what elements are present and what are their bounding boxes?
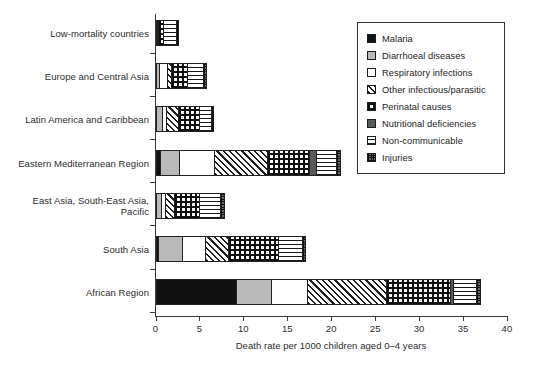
bar-segment-perinatal[interactable] (178, 106, 198, 132)
bar-segment-malaria[interactable] (156, 279, 237, 305)
bar-segment-other-infectious[interactable] (166, 106, 178, 132)
chart-legend: MalariaDiarrhoeal diseasesRespiratory in… (357, 22, 505, 174)
category-label-6: African Region (86, 287, 149, 298)
bar-segment-perinatal[interactable] (267, 150, 309, 176)
bar-row[interactable] (156, 20, 180, 46)
x-tick-30 (419, 316, 420, 321)
y-tick-5 (150, 269, 155, 270)
x-tick-label-35: 35 (458, 323, 469, 334)
bar-segment-respiratory[interactable] (271, 279, 307, 305)
nutritional-swatch (367, 119, 376, 128)
legend-label-perinatal: Perinatal causes (382, 102, 452, 112)
stacked-bar-chart: 0510152025303540 Low-mortality countries… (0, 0, 537, 366)
bar-segment-respiratory[interactable] (159, 63, 167, 89)
x-tick-label-0: 0 (153, 323, 158, 334)
y-tick-4 (150, 225, 155, 226)
bar-segment-respiratory[interactable] (179, 150, 214, 176)
x-tick-20 (331, 316, 332, 321)
legend-label-non-communicable: Non-communicable (382, 136, 463, 146)
bar-segment-injuries[interactable] (176, 20, 180, 46)
legend-item-non-communicable[interactable]: Non-communicable (358, 132, 504, 149)
bar-segment-diarrhoeal[interactable] (158, 236, 182, 262)
bar-segment-nutritional[interactable] (309, 150, 316, 176)
respiratory-swatch (367, 68, 376, 77)
x-tick-0 (156, 316, 157, 321)
x-tick-25 (375, 316, 376, 321)
other-infectious-swatch (367, 85, 376, 94)
bar-segment-perinatal[interactable] (174, 193, 199, 219)
x-axis-title: Death rate per 1000 children aged 0–4 ye… (155, 340, 507, 351)
legend-item-diarrhoeal[interactable]: Diarrhoeal diseases (358, 47, 504, 64)
bar-row[interactable] (156, 279, 481, 305)
legend-item-perinatal[interactable]: Perinatal causes (358, 98, 504, 115)
bar-segment-diarrhoeal[interactable] (160, 150, 179, 176)
bar-segment-injuries[interactable] (302, 236, 306, 262)
x-tick-label-30: 30 (414, 323, 425, 334)
bar-row[interactable] (156, 236, 306, 262)
bar-row[interactable] (156, 150, 341, 176)
bar-segment-injuries[interactable] (336, 150, 341, 176)
legend-label-malaria: Malaria (382, 34, 413, 44)
bar-segment-perinatal[interactable] (228, 236, 279, 262)
y-tick-2 (150, 139, 155, 140)
bar-segment-other-infectious[interactable] (165, 193, 174, 219)
legend-item-respiratory[interactable]: Respiratory infections (358, 64, 504, 81)
bar-segment-perinatal[interactable] (171, 63, 187, 89)
bar-segment-diarrhoeal[interactable] (236, 279, 270, 305)
bar-segment-injuries[interactable] (476, 279, 480, 305)
legend-label-other-infectious: Other infectious/parasitic (382, 85, 486, 95)
perinatal-swatch (367, 102, 376, 111)
x-tick-5 (199, 316, 200, 321)
bar-segment-injuries[interactable] (211, 106, 215, 132)
y-tick-6 (150, 312, 155, 313)
bar-row[interactable] (156, 63, 208, 89)
legend-label-nutritional: Nutritional deficiencies (382, 119, 476, 129)
bar-segment-other-infectious[interactable] (307, 279, 386, 305)
y-tick-0 (150, 53, 155, 54)
category-label-2: Latin America and Caribbean (25, 114, 149, 125)
bar-segment-other-infectious[interactable] (205, 236, 228, 262)
bar-segment-non-communicable[interactable] (187, 63, 203, 89)
legend-item-injuries[interactable]: Injuries (358, 149, 504, 166)
bar-segment-non-communicable[interactable] (453, 279, 476, 305)
bar-segment-non-communicable[interactable] (316, 150, 335, 176)
category-label-3: Eastern Mediterranean Region (18, 157, 149, 168)
category-label-1: Europe and Central Asia (45, 71, 149, 82)
x-tick-40 (507, 316, 508, 321)
x-tick-10 (243, 316, 244, 321)
bar-segment-non-communicable[interactable] (278, 236, 302, 262)
bar-segment-non-communicable[interactable] (163, 20, 176, 46)
y-tick-1 (150, 96, 155, 97)
bar-segment-perinatal[interactable] (386, 279, 450, 305)
legend-label-respiratory: Respiratory infections (382, 68, 473, 78)
x-tick-35 (463, 316, 464, 321)
bar-segment-other-infectious[interactable] (214, 150, 267, 176)
x-tick-label-5: 5 (197, 323, 202, 334)
legend-item-malaria[interactable]: Malaria (358, 30, 504, 47)
malaria-swatch (367, 34, 376, 43)
category-label-5: South Asia (103, 244, 149, 255)
legend-item-nutritional[interactable]: Nutritional deficiencies (358, 115, 504, 132)
bar-segment-respiratory[interactable] (182, 236, 205, 262)
bar-row[interactable] (156, 106, 215, 132)
legend-label-injuries: Injuries (382, 153, 412, 163)
legend-item-other-infectious[interactable]: Other infectious/parasitic (358, 81, 504, 98)
x-tick-15 (287, 316, 288, 321)
x-tick-label-40: 40 (502, 323, 513, 334)
bar-segment-non-communicable[interactable] (199, 193, 220, 219)
injuries-swatch (367, 153, 376, 162)
x-tick-label-10: 10 (238, 323, 249, 334)
category-label-4: East Asia, South-East Asia, Pacific (33, 195, 149, 217)
category-label-0: Low-mortality countries (50, 28, 149, 39)
non-communicable-swatch (367, 136, 376, 145)
x-tick-label-25: 25 (370, 323, 381, 334)
diarrhoeal-swatch (367, 51, 376, 60)
y-tick-3 (150, 182, 155, 183)
bar-segment-non-communicable[interactable] (199, 106, 211, 132)
bar-segment-injuries[interactable] (203, 63, 207, 89)
legend-label-diarrhoeal: Diarrhoeal diseases (382, 51, 465, 61)
bar-segment-injuries[interactable] (220, 193, 224, 219)
x-tick-label-15: 15 (282, 323, 293, 334)
x-tick-label-20: 20 (326, 323, 337, 334)
bar-row[interactable] (156, 193, 225, 219)
